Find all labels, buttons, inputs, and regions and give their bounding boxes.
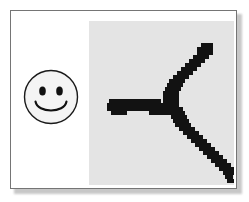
smiley-left-eye bbox=[39, 86, 46, 95]
smiley-face-inner-shade bbox=[27, 73, 76, 122]
smiley-face-icon bbox=[22, 68, 80, 126]
pixelated-stroke-panel bbox=[89, 21, 234, 185]
pixelated-stroke-svg bbox=[89, 21, 234, 185]
smiley-face-svg bbox=[22, 68, 80, 126]
framed-card bbox=[10, 10, 237, 189]
smiley-right-eye bbox=[56, 86, 63, 95]
screenshot-stage bbox=[0, 0, 249, 202]
card-inner-area bbox=[11, 11, 236, 188]
